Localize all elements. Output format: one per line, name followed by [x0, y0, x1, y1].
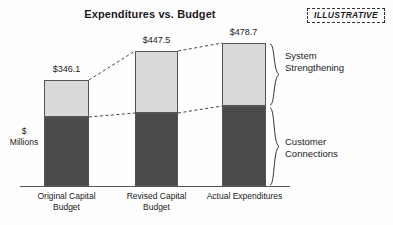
connector-split-1-2 [89, 113, 135, 117]
category-label: Actual Expenditures [199, 191, 290, 202]
bar-actual-expenditures[interactable] [222, 43, 266, 186]
category-label: Original Capital Budget [21, 191, 112, 212]
plot-area: $346.1 Original Capital Budget $447.5 Re… [0, 0, 393, 225]
legend-label-system-strengthening: System Strengthening [285, 50, 385, 75]
category-label: Revised Capital Budget [111, 191, 202, 212]
segment-system-strengthening[interactable] [44, 80, 89, 117]
bar-value-label: $346.1 [29, 64, 104, 74]
x-axis-line [20, 186, 290, 187]
connector-split-2-3 [178, 106, 222, 113]
legend-label-customer-connections: Customer Connections [285, 136, 385, 161]
bar-value-label: $478.7 [206, 27, 281, 37]
chart-canvas: Expenditures vs. Budget ILLUSTRATIVE $34… [0, 0, 393, 225]
bar-value-label: $447.5 [119, 35, 194, 45]
segment-customer-connections[interactable] [44, 117, 89, 186]
segment-system-strengthening[interactable] [222, 43, 266, 106]
brace-customer-connections [268, 107, 282, 186]
segment-system-strengthening[interactable] [135, 51, 178, 113]
segment-customer-connections[interactable] [222, 106, 266, 186]
segment-customer-connections[interactable] [135, 113, 178, 186]
brace-system-strengthening [268, 43, 282, 106]
y-axis-caption: $ Millions [4, 126, 44, 147]
bar-revised-capital-budget[interactable] [135, 51, 178, 186]
bar-original-capital-budget[interactable] [44, 80, 89, 186]
